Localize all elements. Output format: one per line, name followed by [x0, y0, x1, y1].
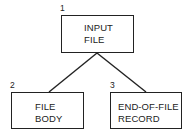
node-file-body: FILE BODY [11, 92, 84, 129]
node-input-file-line1: INPUT [84, 22, 113, 34]
edge-input-file-to-file-body [49, 53, 97, 92]
node-number-1: 1 [60, 4, 65, 13]
node-number-2: 2 [10, 81, 15, 90]
node-end-of-file-record-line2: RECORD [118, 113, 160, 125]
node-input-file: INPUT FILE [61, 15, 134, 53]
node-input-file-line2: FILE [84, 34, 104, 46]
node-end-of-file-record: END-OF-FILE RECORD [110, 92, 182, 129]
edge-input-file-to-end-of-file-record [97, 53, 146, 92]
node-end-of-file-record-line1: END-OF-FILE [118, 101, 179, 113]
node-number-3: 3 [110, 81, 115, 90]
node-file-body-line2: BODY [35, 113, 62, 125]
node-file-body-line1: FILE [35, 101, 55, 113]
structure-diagram: 1 INPUT FILE 2 FILE BODY 3 END-OF-FILE R… [0, 0, 194, 139]
